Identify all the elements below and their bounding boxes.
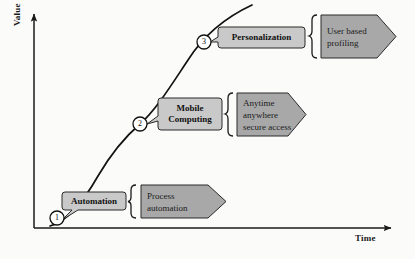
callout-label-mobile-computing[interactable]: Mobile Computing — [159, 98, 221, 130]
milestone-label-3: 3 — [197, 35, 211, 49]
y-axis-label: Value — [12, 3, 22, 26]
chevron-label-user-based-profiling[interactable]: User based profiling — [327, 15, 393, 58]
chevron-label-anytime-anywhere[interactable]: Anytime anywhere secure access — [243, 93, 305, 136]
diagram-canvas: Value Time 1 2 3 Automation Mobile Compu… — [0, 0, 415, 259]
callout-label-automation[interactable]: Automation — [63, 192, 125, 210]
brace-automation — [128, 185, 136, 218]
x-axis-label: Time — [355, 233, 376, 243]
callout-label-personalization[interactable]: Personalization — [219, 27, 304, 48]
milestone-label-1: 1 — [50, 211, 64, 225]
milestone-label-2: 2 — [133, 117, 147, 131]
brace-mobile-computing — [225, 93, 233, 136]
chevron-label-process-automation[interactable]: Process automation — [147, 185, 217, 218]
brace-personalization — [309, 15, 317, 58]
